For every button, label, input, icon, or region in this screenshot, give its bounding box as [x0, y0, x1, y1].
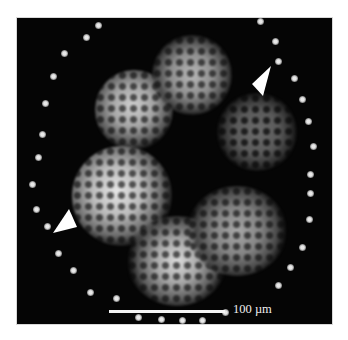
nucleus-dot: [275, 282, 282, 289]
arrowhead-upper-right-icon: [247, 62, 287, 102]
nucleus-dot: [135, 314, 142, 321]
nucleus-dot: [95, 22, 102, 29]
nucleus-dot: [33, 206, 40, 213]
arrowhead-lower-left-icon: [49, 203, 89, 243]
nucleus-dot: [61, 50, 68, 57]
cell-cluster-right: [217, 93, 297, 171]
nucleus-dot: [291, 75, 298, 82]
scale-bar-label: 100 µm: [233, 302, 272, 317]
nucleus-dot: [55, 250, 62, 257]
cell-cluster-top: [152, 35, 232, 115]
nucleus-dot: [39, 131, 46, 138]
nucleus-dot: [299, 96, 306, 103]
nucleus-dot: [29, 181, 36, 188]
nucleus-dot: [310, 143, 317, 150]
nucleus-dot: [199, 317, 206, 324]
nucleus-dot: [307, 171, 314, 178]
nucleus-dot: [83, 34, 90, 41]
nucleus-dot: [299, 244, 306, 251]
nucleus-dot: [87, 289, 94, 296]
nucleus-dot: [113, 295, 120, 302]
nucleus-dot: [158, 316, 165, 323]
cell-cluster-bottom-right: [187, 186, 287, 276]
scale-bar: [109, 310, 225, 313]
nucleus-dot: [35, 154, 42, 161]
nucleus-dot: [42, 100, 49, 107]
nucleus-dot: [70, 267, 77, 274]
nucleus-dot: [272, 38, 279, 45]
nucleus-dot: [306, 216, 313, 223]
nucleus-dot: [179, 317, 186, 324]
nucleus-dot: [257, 18, 264, 25]
nucleus-dot: [287, 264, 294, 271]
nucleus-dot: [307, 190, 314, 197]
micrograph-image: 100 µm: [16, 17, 333, 325]
nucleus-dot: [305, 118, 312, 125]
nucleus-dot: [50, 73, 57, 80]
